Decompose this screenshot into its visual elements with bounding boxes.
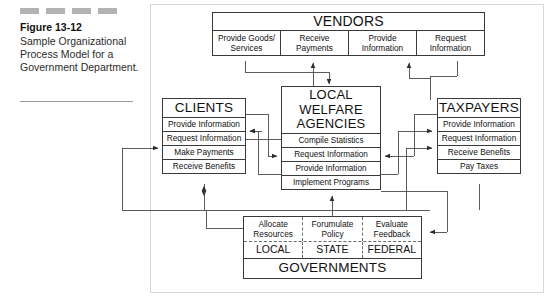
vendors-process-cell[interactable]: Provide Goods/ Services xyxy=(213,31,280,55)
governments-level-cell[interactable]: STATE xyxy=(302,242,361,258)
governments-title: GOVERNMENTS xyxy=(244,258,421,278)
taxpayers-process-row[interactable]: Request Information xyxy=(438,131,520,145)
lwa-process-row[interactable]: Request Information xyxy=(282,147,380,161)
clients-process-row[interactable]: Receive Benefits xyxy=(163,159,245,173)
vendors-process-cell[interactable]: Receive Payments xyxy=(280,31,348,55)
clients-process-row[interactable]: Request Information xyxy=(163,131,245,145)
taxpayers-process-row[interactable]: Provide Information xyxy=(438,117,520,131)
vendors-process-cell[interactable]: Request Information xyxy=(416,31,484,55)
vendors-process-row: Provide Goods/ Services Receive Payments… xyxy=(213,30,484,55)
clients-process-row[interactable]: Make Payments xyxy=(163,145,245,159)
governments-level-cell[interactable]: FEDERAL xyxy=(362,242,421,258)
governments-entity-box[interactable]: Allocate Resources Forumulate Policy Eva… xyxy=(243,216,422,279)
governments-process-cell[interactable]: Evaluate Feedback xyxy=(362,217,421,241)
taxpayers-process-row[interactable]: Receive Benefits xyxy=(438,145,520,159)
governments-process-cell[interactable]: Allocate Resources xyxy=(244,217,302,241)
lwa-process-row[interactable]: Implement Programs xyxy=(282,175,380,189)
vendors-entity-box[interactable]: VENDORS Provide Goods/ Services Receive … xyxy=(212,12,485,56)
lwa-process-row[interactable]: Provide Information xyxy=(282,161,380,175)
governments-process-cell[interactable]: Forumulate Policy xyxy=(302,217,361,241)
clients-title: CLIENTS xyxy=(163,99,245,117)
vendors-process-cell[interactable]: Provide Information xyxy=(348,31,416,55)
taxpayers-entity-box[interactable]: TAXPAYERS Provide Information Request In… xyxy=(437,98,521,174)
governments-level-cell[interactable]: LOCAL xyxy=(244,242,302,258)
clients-process-row[interactable]: Provide Information xyxy=(163,117,245,131)
governments-level-row: LOCAL STATE FEDERAL xyxy=(244,241,421,258)
local-welfare-agencies-entity-box[interactable]: LOCAL WELFARE AGENCIES Compile Statistic… xyxy=(281,86,381,190)
taxpayers-process-row[interactable]: Pay Taxes xyxy=(438,159,520,173)
lwa-process-row[interactable]: Compile Statistics xyxy=(282,133,380,147)
vendors-title: VENDORS xyxy=(213,13,484,30)
local-welfare-agencies-title: LOCAL WELFARE AGENCIES xyxy=(282,87,380,133)
taxpayers-title: TAXPAYERS xyxy=(438,99,520,117)
clients-entity-box[interactable]: CLIENTS Provide Information Request Info… xyxy=(162,98,246,174)
governments-process-row: Allocate Resources Forumulate Policy Eva… xyxy=(244,217,421,241)
